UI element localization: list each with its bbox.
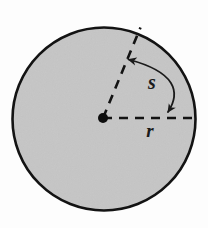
center-dot [98,113,108,123]
circle-arc-diagram: s r [0,0,208,228]
radius-label: r [146,120,154,141]
arc-length-label: s [147,71,156,93]
figure-container: s r [0,0,208,228]
